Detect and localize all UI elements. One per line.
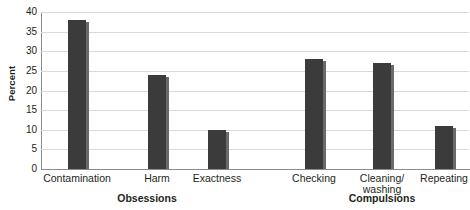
bar <box>208 130 226 169</box>
y-tick-label: 15 <box>26 105 37 115</box>
gridline <box>41 110 469 111</box>
bar-shadow <box>166 77 169 169</box>
bar-shadow <box>391 65 394 169</box>
bar-shadow <box>86 22 89 169</box>
y-axis-title: Percent <box>6 49 17 119</box>
gridline <box>41 12 469 13</box>
bar-shadow <box>453 128 456 169</box>
y-tick-label: 35 <box>26 27 37 37</box>
gridline <box>41 71 469 72</box>
y-tick-label: 10 <box>26 125 37 135</box>
gridline <box>41 130 469 131</box>
gridline <box>41 51 469 52</box>
gridline <box>41 32 469 33</box>
x-axis-line <box>41 169 470 170</box>
bar <box>305 59 323 169</box>
group-label: Compulsions <box>322 192 442 204</box>
bar <box>373 63 391 169</box>
gridline <box>41 149 469 150</box>
bar <box>148 75 166 169</box>
y-tick-label: 20 <box>26 86 37 96</box>
plot-area: 0510152025303540 <box>41 12 469 169</box>
gridline <box>41 91 469 92</box>
y-tick-label: 5 <box>31 144 37 154</box>
bar <box>68 20 86 169</box>
y-tick-label: 25 <box>26 66 37 76</box>
bar <box>435 126 453 169</box>
x-axis-label: Exactness <box>162 173 272 184</box>
bar-shadow <box>226 132 229 169</box>
bar-shadow <box>323 61 326 169</box>
y-tick-label: 40 <box>26 7 37 17</box>
y-tick-label: 30 <box>26 46 37 56</box>
bar-chart: Percent 0510152025303540 ContaminationHa… <box>0 0 470 210</box>
group-label: Obsessions <box>87 192 207 204</box>
x-axis-label: Repeating <box>389 173 470 184</box>
